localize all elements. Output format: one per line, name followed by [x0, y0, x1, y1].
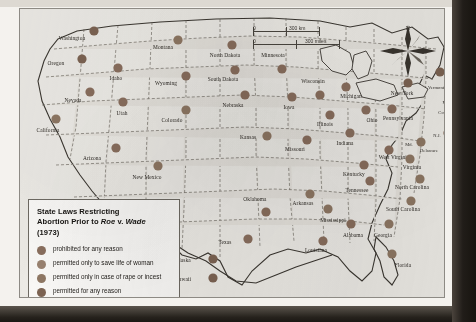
legend-title-line3: (1973) — [37, 228, 59, 237]
state-dot-oklahoma[interactable] — [261, 207, 270, 216]
legend-title-line1: State Laws Restricting — [37, 207, 120, 216]
state-dot-michigan[interactable] — [341, 82, 350, 91]
scale-mi-tick-mid — [296, 40, 297, 49]
map-legend: State Laws Restricting Abortion Prior to… — [28, 199, 180, 298]
state-label-illinois: Illinois — [317, 121, 333, 127]
state-label-conn: Conn. — [438, 110, 444, 115]
state-label-tennessee: Tennessee — [346, 187, 369, 193]
legend-item: permitted for any reason — [37, 287, 171, 297]
page-top-edge — [0, 0, 452, 7]
state-dot-colorado[interactable] — [181, 105, 190, 114]
state-label-new-mexico: New Mexico — [133, 174, 162, 180]
state-dot-iowa[interactable] — [287, 92, 296, 101]
state-dot-arizona[interactable] — [111, 143, 120, 152]
state-label-florida: Florida — [395, 262, 412, 268]
legend-swatch-3 — [37, 288, 46, 297]
legend-title: State Laws Restricting Abortion Prior to… — [37, 207, 171, 238]
state-dot-virginia[interactable] — [405, 154, 414, 163]
book-page: WashingtonOregonIdahoMontanaNevadaUtahWy… — [0, 0, 452, 306]
compass-rose-icon: N — [378, 25, 442, 83]
state-label-idaho: Idaho — [110, 75, 123, 81]
state-label-mississippi: Mississippi — [320, 217, 346, 223]
state-label-arkansas: Arkansas — [293, 200, 314, 206]
state-label-alabama: Alabama — [343, 232, 364, 238]
legend-item: permitted only in case of rape or incest — [37, 273, 171, 283]
state-dot-pennsylvania[interactable] — [387, 104, 396, 113]
state-dot-georgia[interactable] — [384, 219, 393, 228]
scale-km-tick-mid — [286, 27, 287, 36]
state-dot-louisiana[interactable] — [318, 236, 327, 245]
state-label-n-j: N.J. — [433, 133, 441, 138]
state-label-michigan: Michigan — [340, 93, 362, 99]
state-label-north-carolina: North Carolina — [395, 184, 429, 190]
state-label-nevada: Nevada — [64, 97, 82, 103]
state-dot-arkansas[interactable] — [305, 189, 314, 198]
state-dot-utah[interactable] — [118, 97, 127, 106]
state-dot-mississippi[interactable] — [323, 204, 332, 213]
legend-title-line2a: Abortion Prior to — [37, 217, 101, 226]
state-dot-texas[interactable] — [243, 234, 252, 243]
legend-title-wade: Wade — [125, 217, 145, 226]
state-label-west-virginia: West Virginia — [379, 154, 410, 160]
state-dot-california[interactable] — [51, 114, 60, 123]
state-label-minnesota: Minnesota — [261, 52, 285, 58]
state-dot-minnesota[interactable] — [277, 64, 286, 73]
state-label-indiana: Indiana — [337, 140, 354, 146]
legend-label: permitted only to save life of woman — [53, 259, 153, 267]
state-label-oregon: Oregon — [48, 60, 65, 66]
state-label-texas: Texas — [219, 239, 232, 245]
scale-mi-tick-end — [339, 40, 340, 49]
state-dot-kentucky[interactable] — [359, 160, 368, 169]
state-dot-hawaii[interactable] — [208, 273, 217, 282]
state-label-vermont: Vermont — [428, 85, 444, 90]
state-label-kansas: Kansas — [240, 134, 256, 140]
state-dot-idaho[interactable] — [113, 63, 122, 72]
legend-title-line2b: v. — [115, 217, 125, 226]
state-dot-south-dakota[interactable] — [230, 65, 239, 74]
scale-miles-row: 0 300 miles — [253, 38, 365, 51]
state-dot-wisconsin[interactable] — [315, 90, 324, 99]
map-figure: WashingtonOregonIdahoMontanaNevadaUtahWy… — [19, 8, 445, 298]
state-dot-ohio[interactable] — [361, 105, 370, 114]
state-dot-alabama[interactable] — [346, 219, 355, 228]
legend-swatch-2 — [37, 274, 46, 283]
legend-items: prohibited for any reasonpermitted only … — [37, 245, 171, 297]
state-dot-indiana[interactable] — [345, 128, 354, 137]
state-dot-illinois[interactable] — [325, 110, 334, 119]
state-dot-oregon[interactable] — [77, 54, 86, 63]
state-dot-new-mexico[interactable] — [153, 161, 162, 170]
legend-label: prohibited for any reason — [53, 245, 123, 253]
state-dot-north-carolina[interactable] — [415, 174, 424, 183]
state-dot-washington[interactable] — [89, 26, 98, 35]
state-dot-nevada[interactable] — [85, 87, 94, 96]
state-dot-nebraska[interactable] — [240, 90, 249, 99]
state-dot-florida[interactable] — [387, 249, 396, 258]
scale-km-tick-end — [319, 27, 320, 36]
state-dot-montana[interactable] — [173, 35, 182, 44]
state-label-wyoming: Wyoming — [155, 80, 177, 86]
state-label-nebraska: Nebraska — [222, 102, 244, 108]
state-dot-north-dakota[interactable] — [227, 40, 236, 49]
state-dot-south-carolina[interactable] — [406, 196, 415, 205]
legend-label: permitted only in case of rape or incest — [53, 273, 161, 281]
page-bottom-shadow — [0, 306, 452, 322]
scale-km-row: 0 300 km — [253, 25, 365, 38]
state-label-new-york: New York — [391, 90, 414, 96]
compass-north-label: N — [406, 25, 411, 31]
state-dot-wyoming[interactable] — [181, 71, 190, 80]
legend-item: permitted only to save life of woman — [37, 259, 171, 269]
state-label-ohio: Ohio — [366, 117, 377, 123]
state-label-south-carolina: South Carolina — [386, 206, 420, 212]
state-label-pennsylvania: Pennsylvania — [383, 115, 413, 121]
state-dot-kansas[interactable] — [262, 131, 271, 140]
state-dot-tennessee[interactable] — [365, 176, 374, 185]
state-label-md: Md. — [405, 142, 413, 147]
state-dot-md[interactable] — [416, 137, 425, 146]
scale-miles-zero: 0 — [253, 38, 256, 44]
legend-swatch-0 — [37, 246, 46, 255]
legend-item: prohibited for any reason — [37, 245, 171, 255]
legend-title-roe: Roe — [101, 217, 116, 226]
state-dot-alaska[interactable] — [208, 254, 217, 263]
book-gutter-shadow — [452, 0, 476, 322]
state-dot-missouri[interactable] — [302, 135, 311, 144]
